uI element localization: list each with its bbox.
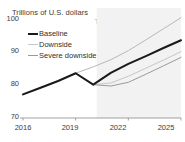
chart-plot-area (0, 0, 185, 142)
chart-container: Trillions of U.S. dollars 100 90 80 70 2… (0, 0, 185, 142)
